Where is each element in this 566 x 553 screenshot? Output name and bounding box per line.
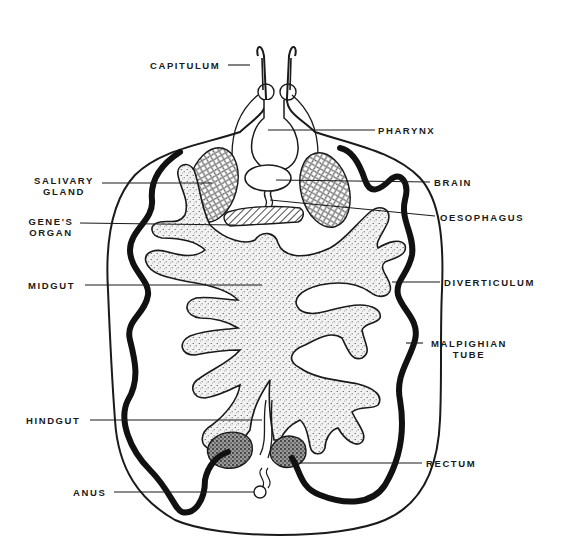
- label-malpighian-line1: MALPIGHIAN: [426, 338, 512, 349]
- label-salivary-gland-line1: SALIVARY: [30, 175, 98, 186]
- label-hindgut: HINDGUT: [26, 415, 80, 426]
- genes-organ: [224, 207, 303, 226]
- label-brain: BRAIN: [434, 177, 472, 188]
- label-pharynx: PHARYNX: [378, 125, 435, 136]
- label-genes-organ: GENE'S ORGAN: [24, 216, 78, 238]
- label-malpighian-line2: TUBE: [426, 349, 512, 360]
- label-oesophagus: OESOPHAGUS: [440, 212, 524, 223]
- label-rectum: RECTUM: [426, 458, 476, 469]
- label-malpighian-tube: MALPIGHIAN TUBE: [426, 338, 512, 360]
- label-genes-organ-line2: ORGAN: [24, 227, 78, 238]
- label-salivary-gland: SALIVARY GLAND: [30, 175, 98, 197]
- salivary-gland-right: [292, 147, 358, 233]
- tick-anatomy-diagram: CAPITULUM PHARYNX SALIVARY GLAND BRAIN G…: [0, 0, 566, 553]
- label-diverticulum: DIVERTICULUM: [444, 277, 535, 288]
- brain: [245, 165, 291, 191]
- label-genes-organ-line1: GENE'S: [24, 216, 78, 227]
- label-anus: ANUS: [73, 487, 106, 498]
- label-salivary-gland-line2: GLAND: [30, 186, 98, 197]
- label-midgut: MIDGUT: [28, 280, 75, 291]
- label-capitulum: CAPITULUM: [150, 60, 220, 71]
- anus: [254, 486, 266, 498]
